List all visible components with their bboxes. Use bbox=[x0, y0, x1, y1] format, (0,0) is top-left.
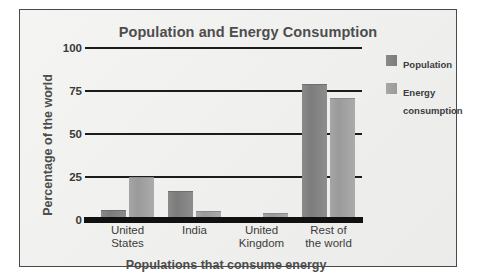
x-axis-title: Populations that consume energy bbox=[56, 258, 396, 272]
bar-group bbox=[228, 48, 295, 220]
legend-swatch-population-icon bbox=[386, 55, 397, 66]
y-axis-title: Percentage of the world bbox=[41, 55, 55, 235]
y-tick-label: 50 bbox=[69, 128, 82, 140]
bar-group bbox=[94, 48, 161, 220]
y-tick-label: 75 bbox=[69, 85, 82, 97]
y-tick-label: 25 bbox=[69, 171, 82, 183]
bars-container bbox=[94, 48, 362, 220]
legend-swatch-energy-icon bbox=[386, 83, 397, 94]
legend-label-energy-consumption: Energy consumption bbox=[403, 87, 463, 116]
legend-label-population: Population bbox=[403, 59, 452, 70]
plot-area: 0255075100 bbox=[94, 48, 362, 220]
y-tick-label: 100 bbox=[63, 42, 82, 54]
bar-group bbox=[161, 48, 228, 220]
legend-item-energy-consumption: Energy consumption bbox=[386, 82, 477, 118]
y-tick-mark bbox=[85, 47, 94, 49]
y-tick-mark bbox=[85, 133, 94, 135]
chart-figure: Population and Energy Consumption Percen… bbox=[0, 0, 477, 279]
bar bbox=[168, 191, 193, 220]
bar bbox=[330, 98, 355, 220]
y-tick-mark bbox=[85, 90, 94, 92]
bar-group bbox=[295, 48, 362, 220]
x-category-label: United Kingdom bbox=[228, 224, 295, 250]
bar bbox=[302, 84, 327, 220]
y-tick-label: 0 bbox=[76, 214, 82, 226]
y-tick-mark bbox=[85, 176, 94, 178]
chart-legend: Population Energy consumption bbox=[386, 54, 477, 128]
x-axis-line bbox=[84, 217, 363, 223]
x-axis-category-labels: United StatesIndiaUnited KingdomRest of … bbox=[94, 224, 362, 258]
x-category-label: India bbox=[161, 224, 228, 237]
bar bbox=[129, 177, 154, 220]
chart-title: Population and Energy Consumption bbox=[20, 24, 458, 40]
x-category-label: Rest of the world bbox=[295, 224, 362, 250]
x-category-label: United States bbox=[94, 224, 161, 250]
chart-panel: Population and Energy Consumption Percen… bbox=[19, 9, 457, 267]
legend-item-population: Population bbox=[386, 54, 477, 72]
